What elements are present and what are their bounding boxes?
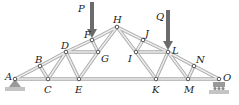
truss-members-highlight bbox=[15, 27, 219, 79]
joint-label-C: C bbox=[44, 84, 52, 95]
member-AB-highlight bbox=[15, 66, 40, 79]
joint-G bbox=[96, 50, 100, 54]
truss-diagram: PQ ABCDEFGHIJKLMNO bbox=[0, 0, 239, 105]
joint-A bbox=[13, 77, 17, 81]
joint-label-K: K bbox=[151, 84, 160, 95]
load-label-Q: Q bbox=[156, 11, 164, 22]
joint-label-J: J bbox=[143, 28, 150, 39]
joint-label-E: E bbox=[74, 84, 83, 95]
joint-C bbox=[46, 77, 50, 81]
member-DF-highlight bbox=[66, 40, 92, 52]
member-IK-highlight bbox=[136, 52, 156, 79]
load-label-P: P bbox=[77, 3, 85, 14]
joint-label-O: O bbox=[223, 72, 231, 83]
roller-support-O bbox=[209, 82, 229, 94]
ground-icon bbox=[209, 90, 229, 94]
loads: PQ bbox=[77, 2, 173, 50]
joint-label-H: H bbox=[112, 14, 122, 25]
member-DE-highlight bbox=[66, 52, 79, 79]
joint-M bbox=[186, 77, 190, 81]
member-NO-highlight bbox=[194, 66, 219, 79]
supports bbox=[5, 79, 229, 94]
joint-label-F: F bbox=[83, 29, 92, 40]
joint-label-A: A bbox=[4, 71, 12, 82]
truss-members bbox=[15, 27, 219, 79]
load-Q: Q bbox=[156, 10, 173, 50]
joint-O bbox=[217, 77, 221, 81]
joint-label-L: L bbox=[171, 45, 179, 56]
joint-E bbox=[77, 77, 81, 81]
joint-label-G: G bbox=[101, 53, 109, 64]
roller-icon bbox=[218, 87, 221, 90]
member-EG-highlight bbox=[79, 52, 98, 79]
joint-K bbox=[154, 77, 158, 81]
joint-label-M: M bbox=[183, 84, 195, 95]
joint-I bbox=[134, 50, 138, 54]
joint-label-D: D bbox=[60, 40, 69, 51]
member-BC-highlight bbox=[40, 66, 48, 79]
roller-icon bbox=[214, 87, 217, 90]
joint-L bbox=[166, 50, 170, 54]
joint-label-I: I bbox=[127, 53, 133, 64]
roller-icon bbox=[222, 87, 225, 90]
joint-H bbox=[115, 25, 119, 29]
joint-label-B: B bbox=[34, 54, 42, 65]
member-KL-highlight bbox=[156, 52, 168, 79]
joint-label-N: N bbox=[195, 54, 206, 65]
ground-icon bbox=[5, 87, 25, 91]
